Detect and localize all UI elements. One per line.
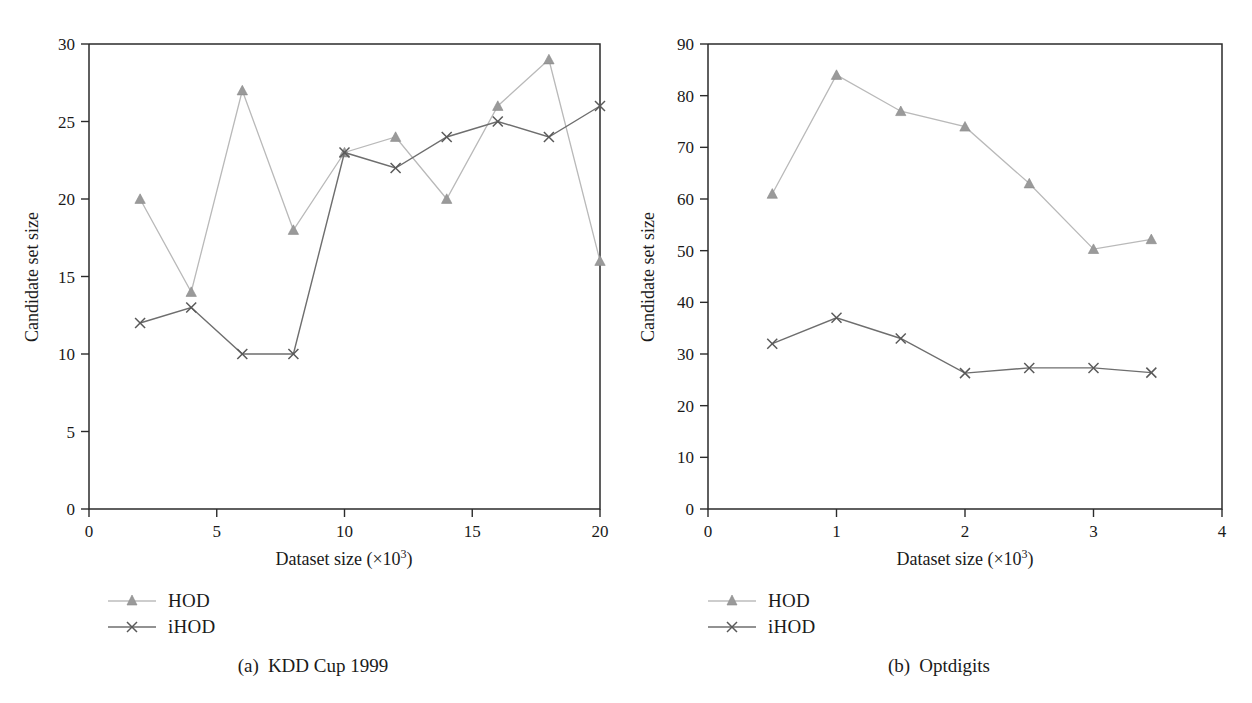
triangle-marker-icon bbox=[708, 591, 756, 611]
panel-a-x-tick-label: 20 bbox=[592, 522, 609, 541]
panel-a-hod-point bbox=[237, 85, 247, 95]
panel-b-ihod-point bbox=[767, 339, 777, 349]
panel-a-legend-label-hod: HOD bbox=[168, 590, 210, 612]
panel-b-x-axis-title: Dataset size (×103) bbox=[896, 547, 1033, 570]
panel-b-caption-text: Optdigits bbox=[919, 655, 990, 676]
panel-b: 0102030405060708090 01234 Candidate set … bbox=[626, 0, 1252, 703]
panel-a-series-hod bbox=[135, 54, 605, 296]
panel-a-x-tick-label: 5 bbox=[213, 522, 222, 541]
panel-b-legend-item-ihod: iHOD bbox=[708, 614, 1008, 640]
panel-a-ihod-point bbox=[544, 132, 554, 142]
panel-b-plot-area: 0102030405060708090 01234 Candidate set … bbox=[626, 0, 1252, 600]
panel-a-y-ticks: 051015202530 bbox=[58, 35, 89, 519]
panel-b-legend-item-hod: HOD bbox=[708, 588, 1008, 614]
panel-a-caption: (a)KDD Cup 1999 bbox=[0, 655, 626, 677]
panel-b-x-tick-label: 1 bbox=[832, 522, 841, 541]
panel-b-series-hod bbox=[767, 70, 1156, 254]
panel-a-x-ticks: 05101520 bbox=[85, 509, 609, 541]
panel-a-ihod-line bbox=[140, 106, 600, 354]
x-marker-icon bbox=[108, 617, 156, 637]
panel-b-y-tick-label: 30 bbox=[677, 345, 694, 364]
panel-b-y-tick-label: 60 bbox=[677, 190, 694, 209]
panel-b-y-tick-label: 0 bbox=[686, 500, 695, 519]
panel-b-ihod-point bbox=[896, 334, 906, 344]
x-marker-icon bbox=[708, 617, 756, 637]
panel-b-hod-point bbox=[1146, 234, 1156, 244]
panel-b-caption: (b)Optdigits bbox=[626, 655, 1252, 677]
panel-a-y-tick-label: 15 bbox=[58, 268, 75, 287]
panel-a-y-tick-label: 25 bbox=[58, 113, 75, 132]
triangle-marker-icon bbox=[108, 591, 156, 611]
panel-b-x-axis-title-main: Dataset size (×10 bbox=[896, 549, 1021, 570]
panel-a-frame bbox=[89, 44, 600, 509]
panel-b-y-tick-label: 10 bbox=[677, 448, 694, 467]
panel-a-x-tick-label: 10 bbox=[336, 522, 353, 541]
panel-b-y-tick-label: 70 bbox=[677, 138, 694, 157]
panel-b-x-tick-label: 3 bbox=[1089, 522, 1098, 541]
figure-container: 051015202530 05101520 Candidate set size… bbox=[0, 0, 1252, 703]
panel-b-frame bbox=[708, 44, 1222, 509]
panel-a-y-tick-label: 20 bbox=[58, 190, 75, 209]
panel-b-hod-point bbox=[767, 189, 777, 199]
panel-a-y-tick-label: 10 bbox=[58, 345, 75, 364]
panel-a-hod-point bbox=[390, 132, 400, 142]
panel-b-hod-point bbox=[831, 70, 841, 80]
panel-a-caption-text: KDD Cup 1999 bbox=[268, 655, 388, 676]
panel-b-hod-line bbox=[772, 75, 1151, 249]
panel-a-hod-point bbox=[135, 194, 145, 204]
panel-b-axis-titles: Candidate set size Dataset size (×103) bbox=[638, 212, 1034, 570]
panel-b-x-tick-label: 0 bbox=[704, 522, 713, 541]
panel-b-y-tick-label: 40 bbox=[677, 293, 694, 312]
panel-a-legend-item-hod: HOD bbox=[108, 588, 408, 614]
panel-a-legend-item-ihod: iHOD bbox=[108, 614, 408, 640]
panel-a-ihod-point bbox=[493, 117, 503, 127]
panel-b-chart: 0102030405060708090 01234 Candidate set … bbox=[626, 0, 1252, 600]
panel-a-plot-area: 051015202530 05101520 Candidate set size… bbox=[0, 0, 626, 600]
panel-b-x-tick-label: 2 bbox=[961, 522, 970, 541]
panel-b-legend-label-hod: HOD bbox=[768, 590, 810, 612]
panel-b-ihod-line bbox=[772, 318, 1151, 373]
panel-b-y-tick-label: 20 bbox=[677, 397, 694, 416]
panel-b-y-axis-title: Candidate set size bbox=[638, 212, 658, 342]
panel-a-x-tick-label: 15 bbox=[464, 522, 481, 541]
panel-b-y-tick-label: 90 bbox=[677, 35, 694, 54]
panel-b-y-tick-label: 50 bbox=[677, 242, 694, 261]
panel-a-hod-point bbox=[544, 54, 554, 64]
panel-b-caption-index: (b) bbox=[888, 655, 910, 676]
panel-b-y-tick-label: 80 bbox=[677, 87, 694, 106]
panel-b-x-ticks: 01234 bbox=[704, 509, 1227, 541]
panel-b-y-ticks: 0102030405060708090 bbox=[677, 35, 708, 519]
panel-a-ihod-point bbox=[442, 132, 452, 142]
panel-a-y-tick-label: 5 bbox=[67, 423, 76, 442]
panel-a-x-axis-title-tail: ) bbox=[407, 549, 413, 570]
panel-a-chart: 051015202530 05101520 Candidate set size… bbox=[0, 0, 626, 600]
panel-a-ihod-point bbox=[186, 303, 196, 313]
panel-a: 051015202530 05101520 Candidate set size… bbox=[0, 0, 626, 703]
panel-a-legend: HOD iHOD bbox=[108, 588, 408, 640]
panel-b-x-axis-title-tail: ) bbox=[1028, 549, 1034, 570]
panel-b-hod-point bbox=[896, 106, 906, 116]
panel-a-x-axis-title-main: Dataset size (×10 bbox=[275, 549, 400, 570]
panel-a-y-tick-label: 30 bbox=[58, 35, 75, 54]
panel-a-ihod-point bbox=[135, 318, 145, 328]
panel-b-ihod-point bbox=[832, 313, 842, 323]
panel-a-hod-point bbox=[595, 256, 605, 266]
panel-a-y-axis-title: Candidate set size bbox=[22, 212, 42, 342]
panel-a-legend-label-ihod: iHOD bbox=[168, 616, 216, 638]
panel-b-x-tick-label: 4 bbox=[1218, 522, 1227, 541]
panel-a-hod-point bbox=[186, 287, 196, 297]
panel-b-series-ihod bbox=[767, 313, 1156, 378]
panel-a-hod-point bbox=[288, 225, 298, 235]
panel-a-caption-index: (a) bbox=[238, 655, 259, 676]
panel-a-x-tick-label: 0 bbox=[85, 522, 94, 541]
panel-a-y-tick-label: 0 bbox=[67, 500, 76, 519]
panel-b-legend-label-ihod: iHOD bbox=[768, 616, 816, 638]
panel-a-series-ihod bbox=[135, 101, 605, 359]
panel-a-x-axis-title: Dataset size (×103) bbox=[275, 547, 412, 570]
panel-a-ihod-point bbox=[391, 163, 401, 173]
panel-a-hod-line bbox=[140, 60, 600, 293]
panel-b-legend: HOD iHOD bbox=[708, 588, 1008, 640]
